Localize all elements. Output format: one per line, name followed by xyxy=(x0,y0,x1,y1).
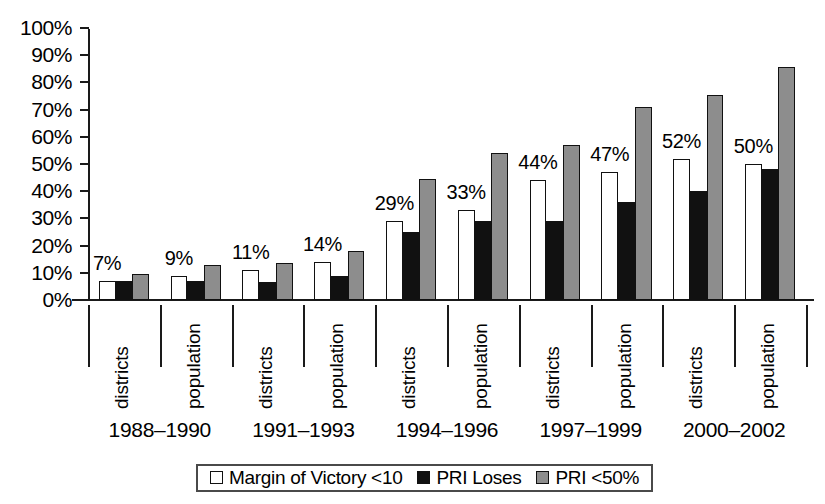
y-tick-label: 100% xyxy=(20,16,72,40)
bar[interactable] xyxy=(276,263,293,300)
bar[interactable] xyxy=(331,276,348,300)
bar-group xyxy=(386,28,436,300)
bar-value-label: 52% xyxy=(662,130,701,153)
legend-item[interactable]: Margin of Victory <10 xyxy=(210,467,402,489)
y-axis-tick xyxy=(80,245,89,247)
bar[interactable] xyxy=(419,179,436,300)
white-square-icon xyxy=(210,471,223,484)
period-label: 1994–1996 xyxy=(396,418,498,442)
bar-value-label: 29% xyxy=(375,192,414,215)
bar[interactable] xyxy=(99,281,116,300)
category-labels: districtspopulationdistrictspopulationdi… xyxy=(72,301,814,413)
y-tick-label: 60% xyxy=(31,125,72,149)
bar[interactable] xyxy=(635,107,652,300)
gray-square-icon xyxy=(536,471,549,484)
y-tick-label: 10% xyxy=(31,261,72,285)
category-label: population xyxy=(614,323,636,409)
bar[interactable] xyxy=(745,164,762,300)
y-tick-label: 20% xyxy=(31,234,72,258)
y-axis-tick xyxy=(80,299,89,301)
bar[interactable] xyxy=(707,95,724,300)
bar[interactable] xyxy=(259,282,276,300)
bar-value-label: 14% xyxy=(303,233,342,256)
bar[interactable] xyxy=(530,180,547,300)
category-separator xyxy=(447,305,449,367)
y-axis-tick xyxy=(80,109,89,111)
y-axis-tick xyxy=(80,54,89,56)
category-label: population xyxy=(470,323,492,409)
y-axis-tick xyxy=(80,190,89,192)
bar[interactable] xyxy=(204,265,221,300)
legend-label: PRI Loses xyxy=(436,467,521,489)
category-separator xyxy=(662,305,664,367)
bar[interactable] xyxy=(458,210,475,300)
chart-legend: Margin of Victory <10PRI LosesPRI <50% xyxy=(196,464,653,492)
bar-value-label: 50% xyxy=(734,135,773,158)
bar[interactable] xyxy=(116,281,133,300)
category-label: population xyxy=(326,323,348,409)
category-separator xyxy=(734,305,736,367)
category-separator xyxy=(160,305,162,367)
category-label: districts xyxy=(398,346,420,409)
period-label: 1988–1990 xyxy=(109,418,211,442)
category-separator xyxy=(375,305,377,367)
legend-item[interactable]: PRI Loses xyxy=(417,467,521,489)
y-axis-tick xyxy=(80,272,89,274)
y-tick-label: 90% xyxy=(31,43,72,67)
category-label: districts xyxy=(542,346,564,409)
legend-item[interactable]: PRI <50% xyxy=(536,467,639,489)
category-label: districts xyxy=(111,346,133,409)
category-separator xyxy=(232,305,234,367)
y-axis-tick xyxy=(80,163,89,165)
bar-value-label: 11% xyxy=(232,241,270,264)
category-label: districts xyxy=(685,346,707,409)
bar[interactable] xyxy=(546,221,563,300)
category-separator xyxy=(591,305,593,367)
bar[interactable] xyxy=(242,270,259,300)
y-tick-label: 30% xyxy=(31,206,72,230)
bar[interactable] xyxy=(132,274,149,300)
y-tick-label: 40% xyxy=(31,179,72,203)
y-tick-label: 80% xyxy=(31,70,72,94)
y-axis-tick xyxy=(80,81,89,83)
category-separator xyxy=(806,305,808,367)
bar[interactable] xyxy=(673,159,690,300)
bar[interactable] xyxy=(778,67,795,300)
bar[interactable] xyxy=(762,169,779,300)
bar-chart: 0%10%20%30%40%50%60%70%80%90%100% 7%9%11… xyxy=(0,0,825,504)
category-separator xyxy=(303,305,305,367)
category-label: population xyxy=(183,323,205,409)
y-tick-label: 50% xyxy=(31,152,72,176)
black-square-icon xyxy=(417,471,430,484)
y-tick-label: 0% xyxy=(42,288,72,312)
bar[interactable] xyxy=(491,153,508,300)
y-tick-label: 70% xyxy=(31,98,72,122)
bar[interactable] xyxy=(690,191,707,300)
category-label: population xyxy=(757,323,779,409)
bar[interactable] xyxy=(386,221,403,300)
period-label: 2000–2002 xyxy=(683,418,785,442)
bar-group xyxy=(745,28,795,300)
bar[interactable] xyxy=(475,221,492,300)
bar[interactable] xyxy=(187,281,204,300)
legend-label: PRI <50% xyxy=(555,467,639,489)
bar[interactable] xyxy=(618,202,635,300)
plot-area: 7%9%11%14%29%33%44%47%52%50% xyxy=(88,28,806,300)
bar-value-label: 44% xyxy=(518,151,557,174)
period-label: 1991–1993 xyxy=(252,418,354,442)
category-separator xyxy=(88,305,90,367)
period-labels: 1988–19901991–19931994–19961997–19992000… xyxy=(72,418,814,450)
y-axis-tick xyxy=(80,217,89,219)
y-axis-tick xyxy=(80,27,89,29)
bar[interactable] xyxy=(563,145,580,300)
bar[interactable] xyxy=(348,251,365,300)
category-label: districts xyxy=(255,346,277,409)
bar[interactable] xyxy=(171,276,188,300)
y-axis-labels: 0%10%20%30%40%50%60%70%80%90%100% xyxy=(4,28,80,300)
bar[interactable] xyxy=(314,262,331,300)
category-separator xyxy=(519,305,521,367)
bar-value-label: 9% xyxy=(165,247,193,270)
bar[interactable] xyxy=(601,172,618,300)
legend-label: Margin of Victory <10 xyxy=(229,467,402,489)
bar[interactable] xyxy=(403,232,420,300)
